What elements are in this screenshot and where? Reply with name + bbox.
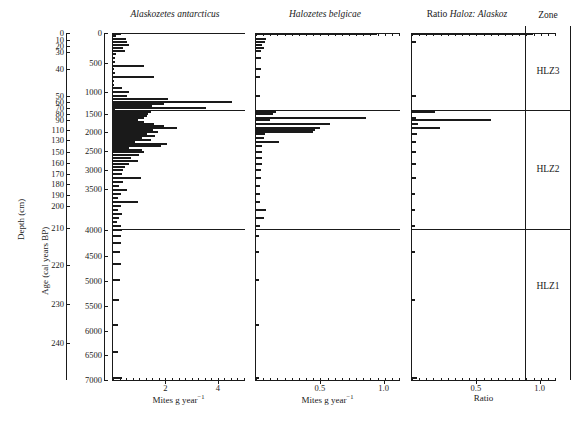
depth-tick-mark xyxy=(66,163,70,164)
depth-axis-title: Depth (cm) xyxy=(16,199,26,240)
zone-boundary-line xyxy=(255,110,400,111)
age-tick-label: 4000 xyxy=(68,226,102,235)
panel-xtick-minor xyxy=(519,378,520,380)
bar xyxy=(256,50,261,52)
age-tick-label: 1000 xyxy=(68,88,102,97)
bar xyxy=(113,279,120,281)
panel-xtick-minor xyxy=(419,378,420,380)
bar xyxy=(256,95,260,97)
panel-top-minor-tick xyxy=(512,33,513,36)
bar xyxy=(113,80,114,82)
age-tick-label: 500 xyxy=(68,59,102,68)
depth-tick-label: 30 xyxy=(36,48,64,57)
panel-title-ratio-text: Haloz: Alaskoz xyxy=(450,9,508,19)
panel-xtick-minor xyxy=(179,378,180,380)
depth-tick-mark xyxy=(66,102,70,103)
panel-top-minor-tick xyxy=(399,33,400,36)
age-tick-mark xyxy=(104,151,108,152)
age-tick-label: 3500 xyxy=(68,185,102,194)
panel-xtick-minor xyxy=(244,378,245,380)
bar xyxy=(256,251,259,253)
age-tick-mark xyxy=(104,230,108,231)
panel-xtick-minor xyxy=(455,378,456,380)
panel-top-minor-tick xyxy=(328,33,329,36)
bar xyxy=(113,68,114,70)
bar xyxy=(113,163,129,165)
panel-top-minor-tick xyxy=(285,33,286,36)
bar xyxy=(113,38,126,40)
panel-alaskozetes-xlabel: Mites g year−1 xyxy=(112,393,245,405)
bar xyxy=(256,217,264,219)
depth-tick-mark xyxy=(66,46,70,47)
panel-alaskozetes-top-rule xyxy=(112,33,245,34)
panel-xtick-minor xyxy=(426,378,427,380)
panel-xtick-minor xyxy=(299,378,300,380)
bar xyxy=(113,217,119,219)
bar xyxy=(256,151,262,153)
panel-top-minor-tick xyxy=(292,33,293,36)
bar xyxy=(256,145,262,147)
panel-ratio-bottom-rule xyxy=(411,380,556,381)
panel-title-alaskozetes: Alaskozetes antarcticus xyxy=(108,9,242,19)
bar xyxy=(113,76,154,78)
bar xyxy=(113,324,118,326)
bar xyxy=(113,263,121,265)
panel-xtick-minor xyxy=(385,378,386,380)
panel-title-halozetes-text: Halozetes belgicae xyxy=(289,9,361,19)
bar xyxy=(256,163,262,165)
bar xyxy=(256,279,259,281)
panel-top-minor-tick xyxy=(299,33,300,36)
panel-xtick-minor xyxy=(285,378,286,380)
panel-xtick-minor xyxy=(356,378,357,380)
panel-xtick-label: 1.0 xyxy=(370,383,398,393)
depth-tick-label: 190 xyxy=(36,191,64,200)
age-tick-label: 1500 xyxy=(68,110,102,119)
depth-tick-mark xyxy=(66,69,70,70)
age-axis-line xyxy=(104,33,105,380)
bar xyxy=(113,35,116,37)
panel-xtick-minor xyxy=(224,378,225,380)
panel-title-alaskozetes-text: Alaskozetes antarcticus xyxy=(130,9,219,19)
bar xyxy=(113,107,206,109)
bar xyxy=(113,151,144,153)
figure-canvas: 0102030405060708090110130150160170180190… xyxy=(0,0,581,423)
bar xyxy=(256,44,262,46)
depth-tick-label: 200 xyxy=(36,202,64,211)
age-axis-title: Age (cal years BP) xyxy=(40,227,50,295)
panel-xtick-minor xyxy=(152,378,153,380)
depth-tick-mark xyxy=(66,265,70,266)
depth-tick-label: 40 xyxy=(36,65,64,74)
panel-top-minor-tick xyxy=(426,33,427,36)
panel-top-minor-tick xyxy=(378,33,379,36)
panel-xtick-minor xyxy=(441,378,442,380)
bar xyxy=(113,197,118,199)
panel-top-minor-tick xyxy=(356,33,357,36)
panel-top-minor-tick xyxy=(419,33,420,36)
panel-xtick-label: 1.0 xyxy=(526,383,554,393)
bar xyxy=(256,38,266,40)
panel-top-minor-tick xyxy=(448,33,449,36)
panel-xtick-minor xyxy=(349,378,350,380)
bar xyxy=(412,209,415,211)
bar xyxy=(113,377,122,379)
bar xyxy=(113,242,121,244)
bar xyxy=(256,141,279,143)
depth-tick-label: 180 xyxy=(36,180,64,189)
panel-title-halozetes: Halozetes belgicae xyxy=(250,9,400,19)
panel-xtick-minor xyxy=(256,378,257,380)
panel-title-ratio-prefix: Ratio xyxy=(427,9,450,19)
panel-top-minor-tick xyxy=(484,33,485,36)
age-tick-mark xyxy=(104,132,108,133)
panel-xtick-minor xyxy=(505,378,506,380)
panel-xtick-minor xyxy=(476,378,477,380)
bar xyxy=(256,201,260,203)
panel-xtick-minor xyxy=(328,378,329,380)
panel-top-minor-tick xyxy=(469,33,470,36)
bar xyxy=(256,225,260,227)
age-tick-mark xyxy=(104,306,108,307)
panel-xtick-minor xyxy=(172,378,173,380)
age-tick-mark xyxy=(104,189,108,190)
panel-title-ratio: Ratio Haloz: Alaskoz xyxy=(405,9,529,19)
panel-top-minor-tick xyxy=(526,33,527,36)
age-tick-label: 7000 xyxy=(68,376,102,385)
